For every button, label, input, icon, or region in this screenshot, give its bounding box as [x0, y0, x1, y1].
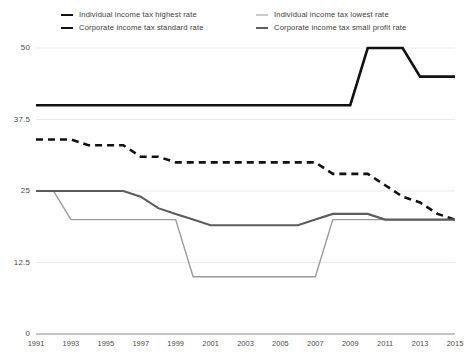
x-tick-label: 2011 — [368, 339, 402, 348]
y-tick-label: 50 — [0, 43, 30, 52]
x-tick-label: 1999 — [159, 339, 193, 348]
series-line-0 — [36, 48, 455, 105]
x-tick-label: 1991 — [19, 339, 53, 348]
x-tick-label: 1993 — [54, 339, 88, 348]
x-tick-label: 2013 — [403, 339, 437, 348]
x-tick-label: 2001 — [194, 339, 228, 348]
x-tick-label: 2005 — [263, 339, 297, 348]
y-tick-label: 0 — [0, 329, 30, 338]
x-tick-label: 2007 — [298, 339, 332, 348]
y-tick-label: 37.5 — [0, 115, 30, 124]
x-tick-label: 2015 — [438, 339, 468, 348]
x-tick-label: 2009 — [333, 339, 367, 348]
x-tick-label: 1997 — [124, 339, 158, 348]
x-tick-label: 2003 — [229, 339, 263, 348]
x-tick-label: 1995 — [89, 339, 123, 348]
y-tick-label: 12.5 — [0, 258, 30, 267]
series-line-2 — [36, 191, 455, 277]
series-line-1 — [36, 140, 455, 220]
y-tick-label: 25 — [0, 186, 30, 195]
